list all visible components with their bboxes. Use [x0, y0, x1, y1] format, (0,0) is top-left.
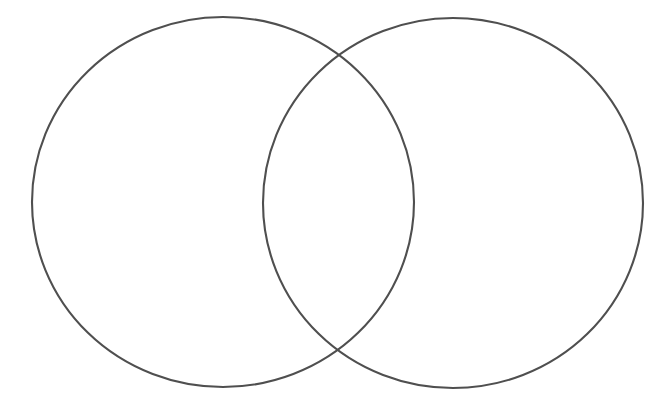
venn-region-left-only[interactable] — [50, 52, 270, 352]
venn-region-right-only[interactable] — [408, 53, 628, 353]
venn-region-intersection[interactable] — [276, 63, 400, 343]
venn-diagram-page — [0, 0, 662, 420]
venn-diagram-canvas — [0, 0, 662, 420]
